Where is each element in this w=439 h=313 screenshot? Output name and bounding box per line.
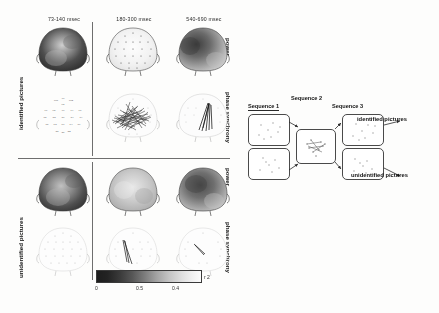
svg-text:O1: O1 [55, 130, 59, 133]
svg-text:F7: F7 [45, 109, 48, 112]
svg-text:Fp1: Fp1 [54, 99, 59, 102]
svg-text:Fp2: Fp2 [69, 99, 74, 102]
diagram-connector-arrows [248, 96, 434, 206]
synchrony-network-dense [102, 90, 164, 146]
scalp-map-unidentified-power-w1 [32, 164, 94, 220]
svg-text:T5: T5 [46, 123, 49, 126]
column-header-window-1: 73-140 msec [30, 16, 98, 22]
synchrony-network-sparse [172, 90, 234, 146]
scalp-map-unidentified-power-w3 [172, 164, 234, 220]
annotation-unidentified-pictures: unidentified pictures [351, 172, 408, 178]
scalp-topography [32, 24, 94, 80]
colorbar-tick-2: 0.4 [172, 285, 179, 291]
colorbar-tick-0: 0 [95, 285, 98, 291]
scalp-topography [102, 164, 164, 220]
figure-root: 73-140 msec 180-300 msec 540-690 msec id… [0, 0, 439, 313]
svg-text:T6: T6 [78, 123, 81, 126]
scalp-topography [172, 24, 234, 80]
colorbar-unit-label: r 2 [204, 274, 210, 280]
svg-text:F3: F3 [53, 109, 56, 112]
colorbar-group: 0 0.5 0.4 r 2 [96, 270, 228, 304]
svg-text:P4: P4 [70, 123, 74, 126]
svg-text:Oz: Oz [61, 131, 65, 134]
scalp-topography [172, 164, 234, 220]
scalp-topography [32, 164, 94, 220]
colorbar-tick-1: 0.5 [136, 285, 143, 291]
scalp-map-identified-sync-w1: Fp1FzFp2 F3 F7F3FzF4F8 T3C3CzC4T4 T5P3Pz… [32, 90, 94, 146]
scalp-topography [102, 24, 164, 80]
svg-text:F4: F4 [71, 109, 74, 112]
row-group-label-identified: identified pictures [17, 77, 24, 130]
svg-text:Fz: Fz [62, 109, 65, 112]
scalp-map-identified-power-w3 [172, 24, 234, 80]
scalp-electrode-labels: Fp1FzFp2 F3 F7F3FzF4F8 T3C3CzC4T4 T5P3Pz… [32, 90, 94, 146]
scalp-map-identified-power-w2 [102, 24, 164, 80]
colorbar-gradient [96, 270, 202, 283]
divider-horizontal [18, 158, 230, 159]
column-header-window-3: 540-690 msec [170, 16, 238, 22]
svg-text:F3: F3 [62, 103, 65, 106]
scalp-map-identified-sync-w2 [102, 90, 164, 146]
annotation-identified-pictures: identified pictures [357, 116, 407, 122]
scalp-map-unidentified-power-w2 [102, 164, 164, 220]
scalp-map-identified-sync-w3 [172, 90, 234, 146]
topography-grid-panel: 73-140 msec 180-300 msec 540-690 msec id… [8, 6, 244, 306]
scalp-map-unidentified-sync-w1 [32, 224, 94, 280]
column-header-window-2: 180-300 msec [100, 16, 168, 22]
svg-text:T3: T3 [44, 116, 47, 119]
svg-text:Pz: Pz [62, 123, 66, 126]
svg-text:O2: O2 [67, 130, 71, 133]
row-group-label-unidentified: unidentified pictures [17, 217, 24, 278]
svg-text:F8: F8 [79, 109, 82, 112]
svg-text:Cz: Cz [62, 116, 66, 119]
svg-text:C4: C4 [70, 116, 74, 119]
svg-text:Fz: Fz [62, 97, 65, 100]
synchrony-network-empty [32, 224, 94, 280]
svg-text:T4: T4 [80, 116, 83, 119]
sequence-diagram-panel: Sequence 1 Sequence 2 Sequence 3 [248, 96, 434, 206]
svg-text:P3: P3 [54, 123, 58, 126]
scalp-map-identified-power-w1 [32, 24, 94, 80]
svg-text:C3: C3 [52, 116, 56, 119]
